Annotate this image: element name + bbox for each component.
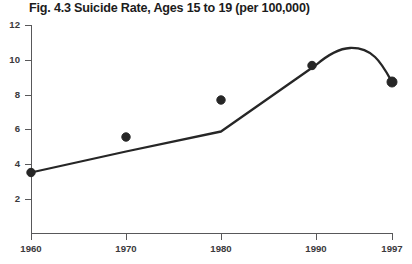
y-axis-label-8: 8	[0, 89, 20, 100]
figure-container: Fig. 4.3 Suicide Rate, Ages 15 to 19 (pe…	[0, 0, 412, 264]
data-point-markers	[27, 61, 397, 176]
x-axis-label-1990: 1990	[296, 243, 336, 254]
suicide-rate-line	[31, 48, 392, 173]
data-point-1980	[217, 96, 225, 104]
x-axis-label-1997: 1997	[372, 243, 412, 254]
data-point-1990	[308, 61, 316, 69]
x-axis-label-1980: 1980	[201, 243, 241, 254]
data-point-1997	[387, 77, 397, 87]
y-axis-label-12: 12	[0, 19, 20, 30]
y-axis-label-4: 4	[0, 158, 20, 169]
data-point-1960	[27, 168, 35, 176]
data-point-1970	[122, 133, 130, 141]
x-axis-ticks	[32, 234, 393, 241]
chart-plot-area	[0, 0, 412, 264]
x-axis-label-1960: 1960	[11, 243, 51, 254]
y-axis-label-2: 2	[0, 193, 20, 204]
y-axis-label-10: 10	[0, 54, 20, 65]
y-axis-label-6: 6	[0, 123, 20, 134]
x-axis-label-1970: 1970	[106, 243, 146, 254]
